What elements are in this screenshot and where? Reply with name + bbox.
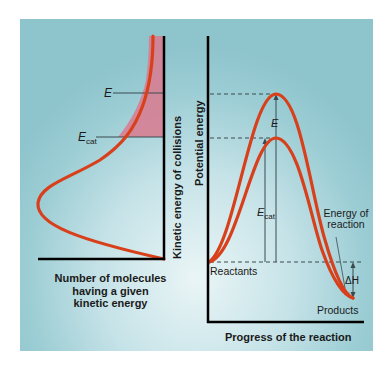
delta-h-arrowhead-up	[351, 262, 356, 268]
right-y-axis-label: Potential energy	[193, 100, 205, 186]
energy-of-reaction-label: Energy of reaction	[318, 208, 374, 230]
left-x-axis-label: Number of molecules having a given kinet…	[48, 272, 173, 310]
products-label: Products	[317, 304, 358, 316]
shaded-area-above-ecat	[118, 36, 164, 137]
delta-h-label: ΔH	[345, 275, 359, 287]
right-e-label: E	[271, 117, 278, 129]
reactants-label: Reactants	[210, 265, 257, 277]
left-ecat-label: Ecat	[78, 131, 97, 148]
right-x-axis-label: Progress of the reaction	[225, 331, 351, 343]
right-ecat-label: Ecat	[257, 206, 275, 223]
left-y-axis-label: Kinetic energy of collisions	[171, 116, 183, 259]
left-e-label: E	[104, 87, 112, 99]
distribution-curve	[38, 36, 164, 259]
